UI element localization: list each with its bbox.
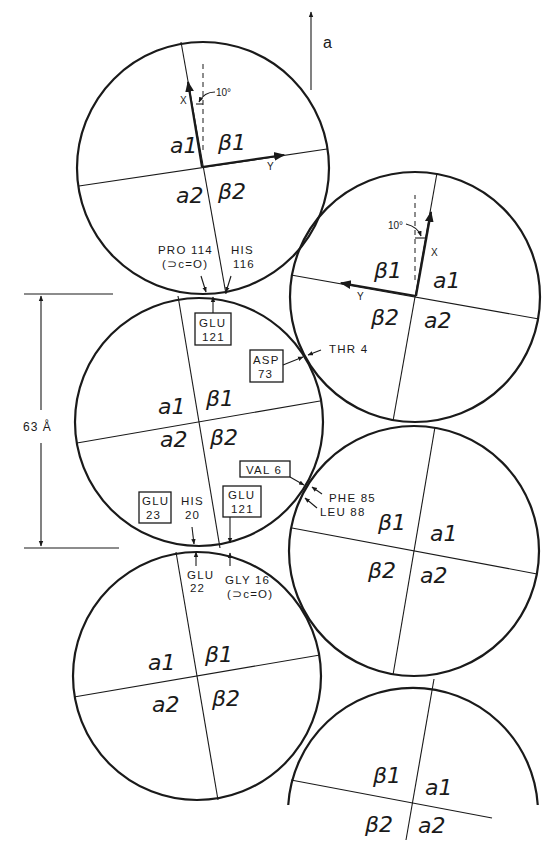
- arrow-icon: [305, 498, 317, 508]
- arrow-icon: [290, 477, 304, 485]
- dimension-label: 63 Å: [23, 419, 52, 434]
- subunit-divider-horizontal: [292, 528, 537, 574]
- residue-his20-name: HIS: [181, 495, 204, 507]
- subunit-divider-horizontal: [74, 655, 320, 697]
- subunit-label-b2: β2: [217, 179, 246, 204]
- arrow-icon: [283, 357, 303, 365]
- residue-glu23-name: GLU: [142, 495, 169, 507]
- residue-phe85: PHE 85: [329, 492, 376, 504]
- subunit-label-a1: a1: [425, 775, 452, 800]
- residue-val6: VAL 6: [246, 464, 282, 476]
- subunit-label-a1: a1: [158, 394, 185, 419]
- residue-pro114-sub: (⊃c=O): [162, 258, 208, 270]
- arrow-icon: [226, 276, 231, 292]
- subunit-label-a2: a2: [152, 692, 179, 717]
- residue-asp73-name: ASP: [253, 354, 280, 366]
- residue-gly16-sub: (⊃c=O): [227, 588, 273, 600]
- molecule-1: a1β1a2β2: [77, 42, 329, 294]
- residue-asp73-num: 73: [258, 368, 273, 380]
- x-axis-label: X: [180, 95, 187, 106]
- arrow-icon: [308, 350, 321, 355]
- crystal-axis-a: a: [311, 12, 332, 90]
- subunit-divider-horizontal: [291, 275, 539, 319]
- subunit-label-a1: a1: [433, 268, 460, 293]
- residue-glu121-num: 121: [231, 503, 254, 515]
- subunit-label-b1: β1: [373, 258, 402, 283]
- subunit-label-b1: β1: [205, 386, 234, 411]
- residue-pro114: PRO 114: [158, 244, 213, 256]
- subunit-label-b2: β2: [211, 686, 240, 711]
- subunit-label-a1: a1: [148, 650, 175, 675]
- subunit-label-a2: a2: [160, 427, 187, 452]
- residue-his20-num: 20: [185, 509, 200, 521]
- subunit-label-a1: a1: [170, 133, 197, 158]
- subunit-label-b1: β1: [377, 510, 406, 535]
- subunit-label-b2: β2: [367, 558, 396, 583]
- molecules-layer: a1β1a2β2a1β1a2β2a1β1a2β2a1β1a2β2a1β1a2β2…: [73, 42, 540, 840]
- angle-arc-arrow-icon: [406, 224, 421, 236]
- residue-glu23-num: 23: [146, 509, 161, 521]
- subunit-label-b1: β1: [372, 763, 401, 788]
- subunit-label-b1: β1: [217, 130, 246, 155]
- y-axis-arrow-icon: [341, 283, 416, 296]
- molecule-6: a1β1a2β2: [288, 679, 538, 840]
- residue-gly16: GLY 16: [225, 574, 270, 586]
- subunit-label-a2: a2: [420, 563, 447, 588]
- subunit-divider-horizontal: [77, 401, 320, 443]
- angle-label: 10°: [388, 220, 403, 231]
- y-axis-label: Y: [357, 291, 364, 302]
- dimension-63A: 63 Å: [23, 294, 119, 548]
- subunit-label-a2: a2: [418, 813, 445, 838]
- angle-label: 10°: [216, 87, 231, 98]
- residue-glu121-num: 121: [202, 331, 225, 343]
- residue-glu22-name: GLU: [187, 569, 214, 581]
- subunit-label-b2: β2: [370, 305, 399, 330]
- residue-leu88: LEU 88: [320, 506, 366, 518]
- molecule-2-axes-annotation: 10° X Y: [341, 195, 438, 302]
- arrow-icon: [201, 276, 206, 292]
- subunit-label-a2: a2: [424, 308, 451, 333]
- residue-thr4: THR 4: [329, 343, 368, 355]
- molecule-4: a1β1a2β2: [289, 426, 539, 676]
- molecule-2: a1β1a2β2: [290, 172, 540, 422]
- contact-bottom: GLU 23 HIS 20 GLU 121 GLU 22 GLY 16 (⊃c=…: [139, 486, 273, 600]
- subunit-divider-vertical: [181, 42, 226, 294]
- subunit-label-b1: β1: [204, 642, 233, 667]
- residue-glu121-name: GLU: [228, 489, 255, 501]
- x-axis-arrow-icon: [416, 212, 431, 296]
- subunit-label-a2: a2: [176, 183, 203, 208]
- subunit-label-b2: β2: [364, 812, 393, 837]
- residue-glu121-name: GLU: [199, 317, 226, 329]
- x-axis-label: X: [431, 247, 438, 258]
- angle-arc-arrow-icon: [199, 92, 215, 102]
- arrow-icon: [192, 527, 194, 544]
- hemoglobin-packing-diagram: a a1β1a2β2a1β1a2β2a1β1a2β2a1β1a2β2a1β1a2…: [0, 0, 554, 855]
- subunit-label-a1: a1: [430, 521, 457, 546]
- residue-glu22-num: 22: [190, 582, 205, 594]
- residue-his116-num: 116: [233, 258, 255, 270]
- crystal-axis-label: a: [323, 34, 332, 51]
- molecule-outline-partial: [288, 688, 538, 805]
- subunit-label-b2: β2: [209, 425, 238, 450]
- y-axis-label: Y: [267, 161, 274, 172]
- residue-his116: HIS: [231, 244, 254, 256]
- arrow-icon: [312, 487, 322, 494]
